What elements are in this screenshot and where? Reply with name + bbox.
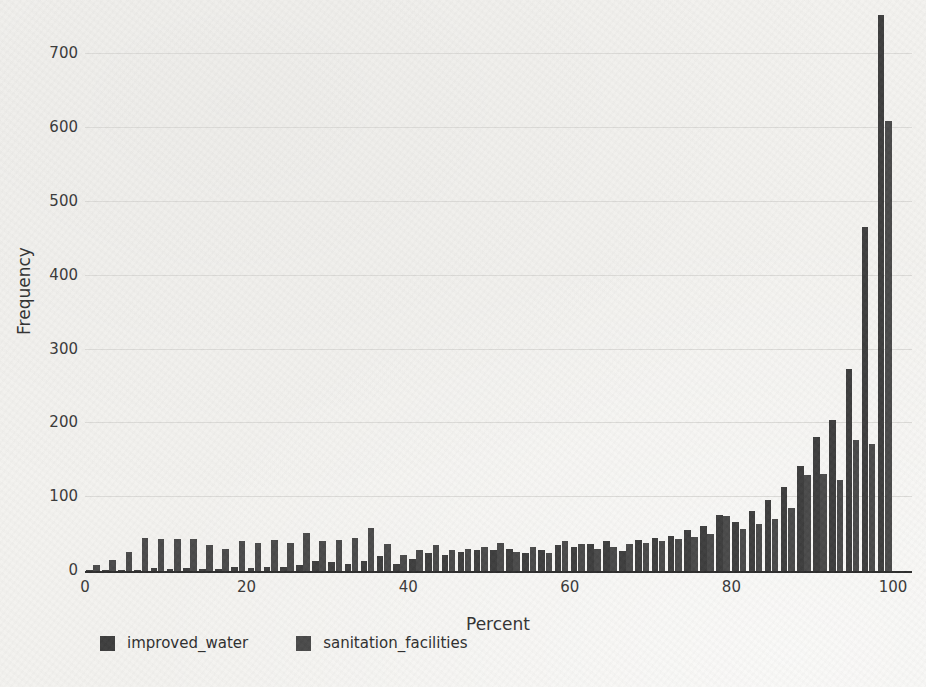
plot-area <box>85 10 912 573</box>
bar-sanitation_facilities-bin-37 <box>384 544 391 571</box>
bar-improved_water-bin-65 <box>603 541 610 571</box>
bar-sanitation_facilities-bin-79 <box>723 516 730 571</box>
y-tick-label-300: 300 <box>38 342 78 357</box>
bar-sanitation_facilities-bin-81 <box>740 529 747 571</box>
bar-improved_water-bin-63 <box>587 544 594 571</box>
bar-sanitation_facilities-bin-61 <box>578 544 585 571</box>
bar-improved_water-bin-91 <box>813 437 820 571</box>
bar-sanitation_facilities-bin-57 <box>546 553 553 571</box>
bar-sanitation_facilities-bin-21 <box>255 543 262 571</box>
bar-improved_water-bin-57 <box>538 550 545 571</box>
bar-sanitation_facilities-bin-89 <box>804 475 811 571</box>
x-tick-label-100: 100 <box>873 578 913 596</box>
bar-improved_water-bin-51 <box>490 550 497 571</box>
bar-sanitation_facilities-bin-59 <box>562 541 569 571</box>
bar-sanitation_facilities-bin-5 <box>126 552 133 571</box>
x-axis-title: Percent <box>438 614 558 634</box>
bar-improved_water-bin-1 <box>86 570 93 571</box>
bar-sanitation_facilities-bin-7 <box>142 538 149 571</box>
bar-sanitation_facilities-bin-51 <box>497 543 504 571</box>
gridline-y-600 <box>85 127 912 128</box>
legend-swatch-improved-water <box>100 636 115 651</box>
legend-item-sanitation-facilities: sanitation_facilities <box>296 634 467 652</box>
bar-improved_water-bin-83 <box>749 511 756 571</box>
histogram-chart: Frequency Percent improved_water sanitat… <box>0 0 926 687</box>
bar-improved_water-bin-5 <box>118 570 125 571</box>
bar-sanitation_facilities-bin-19 <box>239 541 246 571</box>
bar-sanitation_facilities-bin-93 <box>837 480 844 571</box>
bar-improved_water-bin-75 <box>684 530 691 571</box>
y-axis-title: Frequency <box>14 231 34 351</box>
bar-improved_water-bin-53 <box>506 549 513 571</box>
legend-label-improved-water: improved_water <box>127 634 248 652</box>
bar-sanitation_facilities-bin-69 <box>643 543 650 571</box>
bar-sanitation_facilities-bin-13 <box>190 539 197 571</box>
bar-improved_water-bin-85 <box>765 500 772 571</box>
bar-improved_water-bin-81 <box>732 522 739 571</box>
bar-improved_water-bin-29 <box>312 561 319 571</box>
bar-improved_water-bin-11 <box>167 569 174 571</box>
bar-improved_water-bin-13 <box>183 568 190 571</box>
bar-sanitation_facilities-bin-1 <box>93 565 100 571</box>
bar-improved_water-bin-7 <box>134 570 141 571</box>
bar-sanitation_facilities-bin-91 <box>820 474 827 571</box>
bar-sanitation_facilities-bin-33 <box>352 538 359 571</box>
bar-improved_water-bin-99 <box>878 15 885 571</box>
bar-improved_water-bin-37 <box>377 556 384 571</box>
bar-sanitation_facilities-bin-45 <box>449 550 456 571</box>
y-tick-label-0: 0 <box>38 563 78 578</box>
bar-improved_water-bin-43 <box>425 553 432 571</box>
bar-improved_water-bin-15 <box>199 569 206 571</box>
bar-improved_water-bin-3 <box>102 570 109 571</box>
bar-sanitation_facilities-bin-15 <box>206 545 213 571</box>
bar-sanitation_facilities-bin-47 <box>465 549 472 571</box>
bar-improved_water-bin-71 <box>652 538 659 571</box>
legend-swatch-sanitation-facilities <box>296 636 311 651</box>
bar-improved_water-bin-93 <box>829 420 836 571</box>
bar-improved_water-bin-49 <box>474 550 481 571</box>
gridline-y-700 <box>85 53 912 54</box>
bar-improved_water-bin-77 <box>700 526 707 571</box>
bar-improved_water-bin-21 <box>248 568 255 571</box>
bar-sanitation_facilities-bin-67 <box>626 544 633 571</box>
bar-sanitation_facilities-bin-41 <box>416 550 423 571</box>
y-tick-label-500: 500 <box>38 194 78 209</box>
legend-item-improved-water: improved_water <box>100 634 248 652</box>
bar-sanitation_facilities-bin-43 <box>433 545 440 571</box>
gridline-y-400 <box>85 275 912 276</box>
bar-sanitation_facilities-bin-35 <box>368 528 375 571</box>
y-tick-label-600: 600 <box>38 120 78 135</box>
bar-sanitation_facilities-bin-9 <box>158 539 165 571</box>
x-tick-label-40: 40 <box>388 578 428 596</box>
bar-improved_water-bin-73 <box>668 536 675 571</box>
y-tick-label-400: 400 <box>38 268 78 283</box>
x-tick-label-20: 20 <box>227 578 267 596</box>
bar-sanitation_facilities-bin-71 <box>659 541 666 571</box>
legend: improved_water sanitation_facilities <box>100 634 468 652</box>
y-tick-label-700: 700 <box>38 46 78 61</box>
bar-improved_water-bin-95 <box>846 369 853 571</box>
bar-improved_water-bin-69 <box>635 540 642 571</box>
bar-improved_water-bin-97 <box>862 227 869 571</box>
bar-improved_water-bin-61 <box>571 547 578 571</box>
bar-sanitation_facilities-bin-95 <box>853 440 860 571</box>
bar-sanitation_facilities-bin-97 <box>869 444 876 571</box>
x-tick-label-60: 60 <box>550 578 590 596</box>
gridline-y-100 <box>85 496 912 497</box>
gridline-y-500 <box>85 201 912 202</box>
bar-improved_water-bin-35 <box>361 561 368 571</box>
x-tick-label-80: 80 <box>711 578 751 596</box>
bar-improved_water-bin-47 <box>458 552 465 571</box>
y-tick-label-200: 200 <box>38 415 78 430</box>
bar-improved_water-bin-9 <box>151 568 158 571</box>
bar-improved_water-bin-67 <box>619 551 626 571</box>
bar-sanitation_facilities-bin-87 <box>788 508 795 571</box>
legend-label-sanitation-facilities: sanitation_facilities <box>323 634 467 652</box>
bar-improved_water-bin-39 <box>393 564 400 571</box>
bar-improved_water-bin-55 <box>522 553 529 571</box>
bar-sanitation_facilities-bin-39 <box>400 555 407 571</box>
bar-improved_water-bin-17 <box>215 569 222 571</box>
bar-sanitation_facilities-bin-55 <box>530 547 537 571</box>
bar-improved_water-bin-27 <box>296 565 303 571</box>
bar-sanitation_facilities-bin-99 <box>885 121 892 571</box>
